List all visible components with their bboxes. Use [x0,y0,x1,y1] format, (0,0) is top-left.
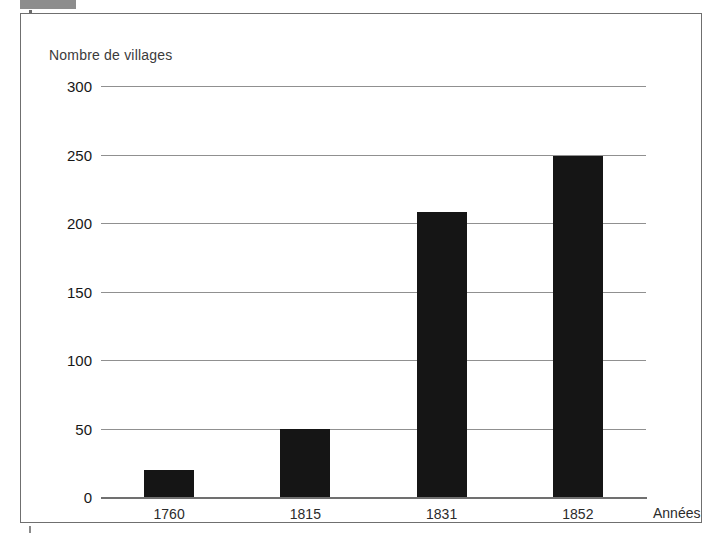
x-axis-title: Années [653,505,700,521]
y-gridline [101,86,646,87]
y-axis-title: Nombre de villages [49,47,172,63]
x-axis-line [101,497,647,499]
y-tick-label: 100 [67,352,92,369]
scan-margin-tab [20,0,76,9]
x-tick-label-1815: 1815 [265,506,345,522]
bar-1760 [144,470,194,497]
bar-1815 [280,429,330,498]
plot-area: 050100150200250300 [101,86,646,497]
y-tick-label: 50 [75,420,92,437]
y-tick-label: 250 [67,146,92,163]
y-tick-label: 300 [67,78,92,95]
chart-figure-frame: Nombre de villages 050100150200250300 17… [20,13,702,523]
x-tick-label-1760: 1760 [129,506,209,522]
bar-1831 [417,212,467,497]
bar-1852 [553,156,603,497]
y-tick-label: 200 [67,215,92,232]
x-tick-label-1831: 1831 [402,506,482,522]
x-tick-label-1852: 1852 [538,506,618,522]
y-tick-label: 150 [67,283,92,300]
scan-mark-bottom-icon [29,526,31,533]
y-tick-label: 0 [84,489,92,506]
